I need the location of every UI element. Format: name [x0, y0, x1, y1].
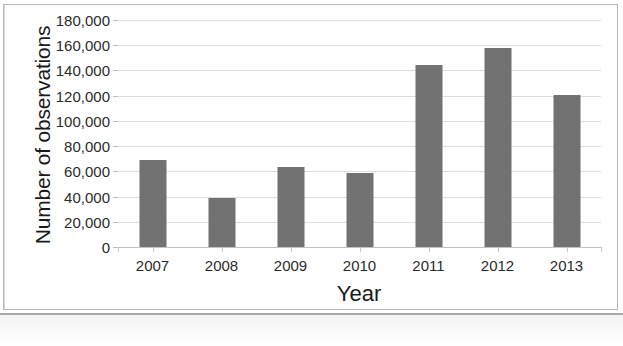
page-bottom-shade — [0, 315, 623, 346]
bar-group-2012: 2012 — [463, 20, 532, 247]
bar-2012 — [484, 48, 511, 247]
x-tick-label-2011: 2011 — [412, 257, 444, 274]
screenshot-root: Number of observations 020,00040,00060,0… — [0, 0, 623, 346]
bar-2011 — [415, 65, 442, 247]
y-tick-label: 60,000 — [30, 163, 110, 180]
bar-group-2007: 2007 — [118, 20, 187, 247]
x-tick-mark — [153, 247, 154, 252]
x-tick-label-2009: 2009 — [274, 257, 307, 274]
y-tick-label: 160,000 — [30, 37, 110, 54]
bar-2008 — [208, 198, 235, 247]
bar-2007 — [139, 160, 166, 247]
bar-group-2013: 2013 — [532, 20, 601, 247]
y-tick-label: 120,000 — [30, 87, 110, 104]
plot-inner: 020,00040,00060,00080,000100,000120,0001… — [118, 20, 601, 247]
x-tick-label-2013: 2013 — [550, 257, 583, 274]
x-axis-title: Year — [114, 281, 604, 307]
bar-2009 — [277, 167, 304, 247]
plot-area: 020,00040,00060,00080,000100,000120,0001… — [118, 20, 601, 247]
y-tick-label: 40,000 — [30, 188, 110, 205]
page-bottom-strip — [0, 313, 623, 346]
y-tick-label: 80,000 — [30, 138, 110, 155]
bars-layer: 2007200820092010201120122013 — [118, 20, 601, 247]
x-tick-label-2007: 2007 — [136, 257, 169, 274]
y-tick-label: 0 — [30, 239, 110, 256]
y-tick-label: 100,000 — [30, 112, 110, 129]
y-tick-label: 140,000 — [30, 62, 110, 79]
x-tick-label-2008: 2008 — [205, 257, 238, 274]
bar-group-2010: 2010 — [325, 20, 394, 247]
x-tick-label-2012: 2012 — [481, 257, 514, 274]
bar-2013 — [553, 95, 580, 247]
x-tick-mark — [291, 247, 292, 252]
bar-chart-figure: Number of observations 020,00040,00060,0… — [4, 5, 616, 309]
x-axis-edge-tick-right — [601, 247, 602, 252]
x-tick-mark — [360, 247, 361, 252]
y-tick-label: 20,000 — [30, 213, 110, 230]
x-tick-label-2010: 2010 — [343, 257, 376, 274]
x-tick-mark — [498, 247, 499, 252]
bar-group-2009: 2009 — [256, 20, 325, 247]
x-axis-edge-tick-left — [118, 247, 119, 252]
bar-group-2008: 2008 — [187, 20, 256, 247]
x-tick-mark — [222, 247, 223, 252]
x-tick-mark — [429, 247, 430, 252]
bar-2010 — [346, 173, 373, 247]
bar-group-2011: 2011 — [394, 20, 463, 247]
x-tick-mark — [567, 247, 568, 252]
y-tick-label: 180,000 — [30, 12, 110, 29]
